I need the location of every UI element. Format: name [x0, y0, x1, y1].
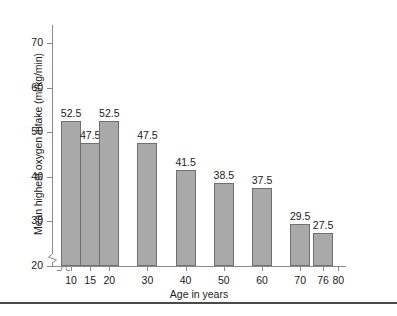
bar-value-label: 27.5: [313, 219, 333, 231]
y-tick-label: 50: [31, 125, 43, 137]
y-axis-line: [52, 25, 53, 251]
x-tick-label: 50: [218, 274, 230, 286]
bar: [290, 224, 310, 266]
x-tick: [147, 267, 148, 271]
y-tick-label: 70: [31, 36, 43, 48]
bar: [99, 121, 119, 266]
x-tick-label: 10: [65, 274, 77, 286]
x-tick-label: 60: [256, 274, 268, 286]
y-tick: 30: [47, 221, 52, 222]
bar-value-label: 52.5: [99, 107, 119, 119]
x-tick-label: 30: [142, 274, 154, 286]
x-axis-line: [52, 266, 346, 267]
bar: [214, 183, 234, 266]
x-tick: [262, 267, 263, 271]
y-tick: 20: [47, 266, 52, 267]
x-tick: [323, 267, 324, 271]
caption-divider: [0, 302, 397, 304]
x-tick: [90, 267, 91, 271]
x-tick-label: 76: [317, 274, 329, 286]
bar: [137, 143, 157, 266]
x-tick: [338, 267, 339, 271]
x-tick-label: 20: [103, 274, 115, 286]
y-tick: 50: [47, 132, 52, 133]
y-tick: 40: [47, 177, 52, 178]
bar-value-label: 52.5: [61, 107, 81, 119]
y-tick-label: 60: [31, 81, 43, 93]
y-tick: 70: [47, 43, 52, 44]
x-tick: [186, 267, 187, 271]
bar-value-label: 29.5: [290, 210, 310, 222]
x-tick-label: 80: [333, 274, 345, 286]
plot-area: 203040506070 10152030405060707680 52.547…: [52, 18, 346, 267]
bar: [80, 143, 100, 266]
bar-value-label: 41.5: [175, 156, 195, 168]
x-tick: [109, 267, 110, 271]
bar: [61, 121, 81, 266]
x-tick: [224, 267, 225, 271]
y-axis-break-icon: [48, 250, 57, 263]
bar-value-label: 38.5: [214, 169, 234, 181]
y-tick-label: 40: [31, 170, 43, 182]
y-tick: 60: [47, 88, 52, 89]
bar-value-label: 37.5: [252, 174, 272, 186]
bar-value-label: 47.5: [137, 129, 157, 141]
bar: [252, 188, 272, 266]
x-tick: [71, 267, 72, 271]
x-tick-label: 40: [180, 274, 192, 286]
bar-value-label: 47.5: [80, 129, 100, 141]
y-tick-label: 30: [31, 214, 43, 226]
x-tick: [300, 267, 301, 271]
bar-chart-figure: Mean highest oxygen intake (ml/kg/min) 2…: [0, 0, 397, 316]
x-axis-title: Age in years: [52, 288, 346, 300]
bar: [313, 233, 333, 266]
bar: [176, 170, 196, 266]
y-tick-label: 20: [31, 259, 43, 271]
x-tick-label: 15: [84, 274, 96, 286]
x-tick-label: 70: [294, 274, 306, 286]
